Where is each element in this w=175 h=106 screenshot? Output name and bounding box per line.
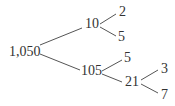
edge-105-5	[102, 60, 122, 71]
node-21: 21	[125, 75, 139, 89]
edge-1050-10	[40, 28, 82, 45]
node-1050: 1,050	[9, 45, 41, 59]
factor-tree: 1,050 10 2 5 105 5 21 3 7	[0, 0, 175, 106]
node-105: 105	[81, 64, 102, 78]
node-5-from-105: 5	[124, 51, 131, 65]
edge-1050-105	[40, 54, 80, 70]
edge-105-21	[102, 74, 122, 82]
node-5-from-10: 5	[118, 30, 125, 44]
node-10: 10	[85, 17, 99, 31]
node-7: 7	[161, 88, 168, 102]
node-2: 2	[119, 5, 126, 19]
edge-21-7	[141, 84, 158, 93]
edge-21-3	[141, 70, 158, 80]
node-3: 3	[161, 62, 168, 76]
edge-10-5	[100, 27, 116, 36]
edge-10-2	[100, 14, 116, 24]
